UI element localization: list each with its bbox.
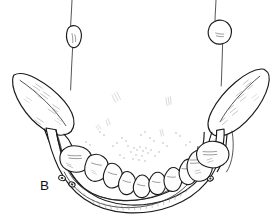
panel-label: B: [40, 178, 49, 193]
interior-shading: [85, 92, 190, 162]
tooth-left-first-premolar: [119, 172, 136, 195]
upper-right-tooth-with-root: [208, 0, 231, 86]
upper-left-tooth-with-root: [67, 0, 82, 90]
tooth-right-canine: [149, 172, 166, 194]
tooth-right-second-molar: [197, 141, 229, 168]
figure-panel-b: B: [0, 0, 280, 224]
tooth-left-canine: [133, 175, 150, 198]
mandible-line-drawing: B: [0, 0, 280, 224]
